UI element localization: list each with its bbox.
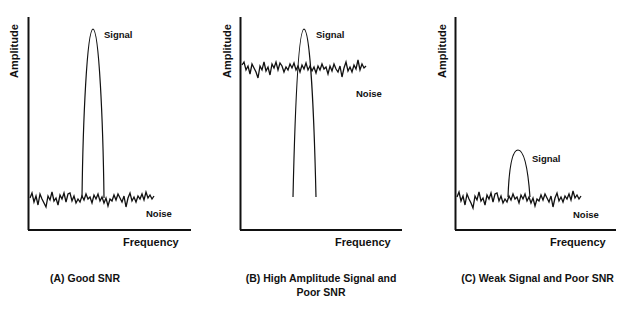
noise-trace	[242, 60, 366, 78]
caption-c-text: (C) Weak Signal and Poor SNR	[461, 272, 614, 284]
signal-peak	[82, 29, 104, 198]
caption-b-line2: Poor SNR	[226, 285, 416, 299]
y-axis-label: Amplitude	[8, 24, 20, 78]
caption-a: (A) Good SNR	[30, 271, 140, 285]
noise-label: Noise	[146, 208, 172, 219]
caption-b: (B) High Amplitude Signal and Poor SNR	[226, 271, 416, 299]
panel-c: Amplitude Frequency Signal Noise	[436, 17, 616, 248]
noise-trace	[457, 191, 581, 208]
x-axis-label: Frequency	[335, 236, 392, 248]
x-axis-label: Frequency	[550, 236, 607, 248]
caption-b-line1: (B) High Amplitude Signal and	[226, 271, 416, 285]
caption-c: (C) Weak Signal and Poor SNR	[440, 271, 635, 285]
signal-label: Signal	[316, 29, 345, 40]
signal-label: Signal	[532, 153, 561, 164]
y-axis-label: Amplitude	[436, 24, 448, 78]
x-axis-label: Frequency	[123, 236, 180, 248]
panel-b: Amplitude Frequency Signal Noise	[221, 17, 402, 248]
signal-peak	[293, 29, 316, 197]
noise-trace	[30, 192, 154, 207]
signal-label: Signal	[104, 29, 133, 40]
noise-label: Noise	[356, 88, 382, 99]
noise-label: Noise	[573, 209, 599, 220]
snr-diagram: Amplitude Frequency Signal Noise Amplitu…	[0, 0, 635, 316]
signal-peak	[508, 150, 530, 197]
panel-a: Amplitude Frequency Signal Noise	[8, 17, 191, 248]
caption-a-text: (A) Good SNR	[50, 272, 120, 284]
y-axis-label: Amplitude	[221, 24, 233, 78]
